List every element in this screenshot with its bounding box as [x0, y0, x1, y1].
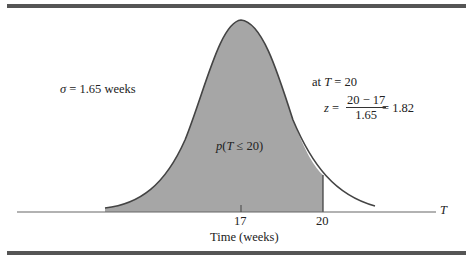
shaded-probability-area	[105, 20, 323, 212]
z-numerator: 20 − 17	[346, 93, 386, 108]
x-axis-title: Time (weeks)	[210, 230, 279, 245]
tick-label-20: 20	[316, 214, 329, 229]
eq-20: = 20	[331, 75, 357, 89]
at-text: at	[312, 75, 324, 89]
p-rest: ≤ 20)	[233, 139, 263, 153]
z-lhs: z =	[324, 101, 339, 116]
axis-variable-t: T	[440, 203, 447, 218]
z-equals: =	[329, 101, 339, 115]
z-result: = 1.82	[382, 101, 414, 116]
sigma-label: σ = 1.65 weeks	[60, 82, 136, 97]
z-denominator: 1.65	[346, 108, 386, 122]
bottom-rule	[7, 251, 466, 255]
z-fraction: 20 − 17 1.65	[346, 93, 386, 122]
at-t-label: at T = 20	[312, 75, 357, 90]
sigma-value: = 1.65 weeks	[66, 82, 136, 96]
probability-label: p(T ≤ 20)	[216, 139, 263, 154]
tick-label-17: 17	[234, 214, 247, 229]
